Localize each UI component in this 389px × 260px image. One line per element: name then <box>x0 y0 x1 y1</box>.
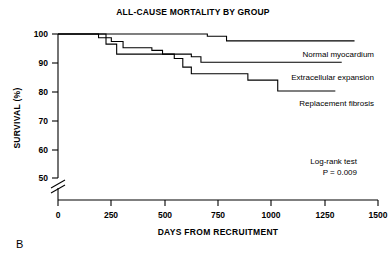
all-cause-mortality-survival-chart: ALL-CAUSE MORTALITY BY GROUP 100 90 80 7… <box>0 0 389 260</box>
km-curve-extracellular-expansion <box>58 34 342 62</box>
y-tick-label-70: 70 <box>39 116 49 126</box>
y-tick-label-90: 90 <box>39 58 49 68</box>
x-tick-label-750: 750 <box>211 210 225 220</box>
log-rank-test-annotation: Log-rank test <box>310 157 357 166</box>
km-curves-group <box>58 34 355 91</box>
x-tick-label-1500: 1500 <box>369 210 388 220</box>
x-axis-ticks: 0 250 500 750 1000 1250 1500 <box>56 200 388 220</box>
x-tick-label-1250: 1250 <box>316 210 335 220</box>
p-value-annotation: P = 0.009 <box>323 168 358 177</box>
panel-label: B <box>16 238 23 250</box>
series-label-normal-myocardium: Normal myocardium <box>302 50 374 59</box>
y-axis-title: SURVIVAL (%) <box>12 87 22 148</box>
x-tick-label-250: 250 <box>104 210 118 220</box>
x-tick-label-500: 500 <box>158 210 172 220</box>
x-axis-title: DAYS FROM RECRUITMENT <box>158 227 279 237</box>
series-label-extracellular-expansion: Extracellular expansion <box>291 73 374 82</box>
x-tick-label-1000: 1000 <box>262 210 281 220</box>
series-label-replacement-fibrosis: Replacement fibrosis <box>299 99 374 108</box>
y-tick-label-50: 50 <box>39 173 49 183</box>
y-tick-label-60: 60 <box>39 145 49 155</box>
chart-title: ALL-CAUSE MORTALITY BY GROUP <box>116 7 270 17</box>
x-tick-label-0: 0 <box>56 210 61 220</box>
y-axis-ticks: 100 90 80 70 60 50 <box>34 29 58 183</box>
y-tick-label-80: 80 <box>39 87 49 97</box>
y-tick-label-100: 100 <box>34 29 48 39</box>
